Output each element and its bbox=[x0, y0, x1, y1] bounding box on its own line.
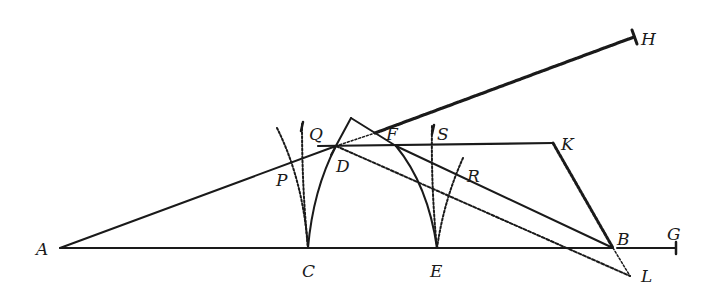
line-KB bbox=[553, 143, 613, 248]
label-Q: Q bbox=[309, 124, 323, 144]
label-C: C bbox=[302, 261, 315, 281]
label-S: S bbox=[437, 124, 449, 144]
label-L: L bbox=[640, 266, 652, 286]
label-R: R bbox=[466, 166, 480, 186]
arc-dotted-Q bbox=[302, 124, 308, 248]
line-DL bbox=[336, 146, 630, 276]
label-P: P bbox=[275, 170, 288, 190]
label-A: A bbox=[34, 239, 48, 259]
label-E: E bbox=[429, 261, 443, 281]
label-B: B bbox=[616, 229, 630, 249]
line-QK bbox=[318, 143, 553, 146]
label-F: F bbox=[385, 124, 399, 144]
label-K: K bbox=[560, 134, 575, 154]
label-G: G bbox=[667, 224, 681, 244]
line-FH bbox=[375, 37, 634, 133]
arc-DC bbox=[308, 146, 336, 248]
label-H: H bbox=[640, 29, 657, 49]
line-AD bbox=[60, 146, 336, 248]
label-D: D bbox=[335, 156, 350, 176]
line-FB bbox=[396, 146, 613, 248]
geometric-diagram: A C E B G D Q F S K H P R L bbox=[0, 0, 712, 307]
